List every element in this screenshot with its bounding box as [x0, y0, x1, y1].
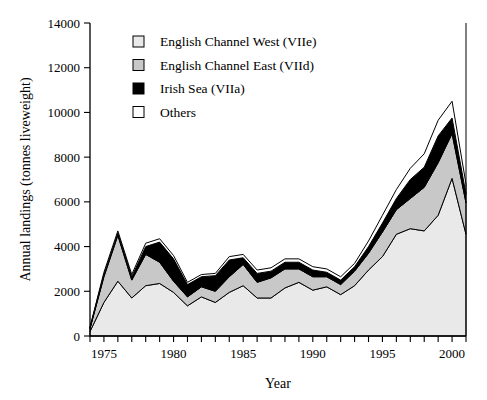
x-tick-label: 1980 — [161, 346, 187, 361]
y-axis-title: Annual landings (tonnes liveweight) — [18, 77, 34, 281]
chart-legend: English Channel West (VIIe)English Chann… — [133, 34, 317, 120]
y-tick-label: 2000 — [54, 284, 80, 299]
stacked-area-chart: 0200040006000800010000120001400019751980… — [0, 0, 487, 400]
x-tick-label: 1995 — [369, 346, 395, 361]
y-tick-label: 8000 — [54, 150, 80, 165]
x-tick-label: 1985 — [230, 346, 256, 361]
legend-label-0: English Channel West (VIIe) — [160, 34, 317, 49]
legend-label-1: English Channel East (VIId) — [160, 58, 314, 73]
y-tick-label: 10000 — [48, 105, 81, 120]
legend-swatch-0 — [133, 36, 144, 47]
chart-container: 0200040006000800010000120001400019751980… — [0, 0, 487, 400]
x-axis-title: Year — [265, 376, 291, 391]
y-tick-label: 12000 — [48, 60, 81, 75]
x-tick-label: 2000 — [439, 346, 465, 361]
x-tick-label: 1990 — [300, 346, 326, 361]
legend-swatch-1 — [133, 60, 144, 71]
legend-label-3: Others — [160, 105, 196, 120]
plot-areas — [90, 101, 466, 336]
y-tick-label: 0 — [74, 329, 81, 344]
legend-swatch-2 — [133, 83, 144, 94]
y-tick-label: 4000 — [54, 239, 80, 254]
y-tick-label: 14000 — [48, 16, 81, 31]
legend-label-2: Irish Sea (VIIa) — [160, 81, 245, 96]
x-tick-label: 1975 — [91, 346, 117, 361]
legend-swatch-3 — [133, 107, 144, 118]
y-tick-label: 6000 — [54, 194, 80, 209]
